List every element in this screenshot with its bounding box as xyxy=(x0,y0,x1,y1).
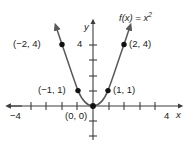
point-label-neg2-4: (−2, 4) xyxy=(13,39,41,49)
y-tick-label-4: 4 xyxy=(77,39,82,49)
x-axis-label: x xyxy=(176,110,181,120)
data-point-0-0 xyxy=(90,103,96,109)
graph-figure: f(x) = x2 y x 4 −4 4 (−2, 4) (−1, 1) (0,… xyxy=(0,0,195,145)
data-point-2-4 xyxy=(121,42,126,47)
data-point-1-1 xyxy=(105,88,110,93)
coordinate-plane xyxy=(0,0,195,145)
data-point-neg2-4 xyxy=(59,42,64,47)
data-point-neg1-1 xyxy=(75,88,80,93)
point-label-0-0: (0, 0) xyxy=(65,111,87,121)
y-axis-label: y xyxy=(84,22,89,32)
function-label-text: f(x) = x xyxy=(119,12,148,23)
function-label-exponent: 2 xyxy=(148,11,152,18)
point-label-1-1: (1, 1) xyxy=(113,85,135,95)
x-tick-label-4: 4 xyxy=(164,111,169,121)
point-label-neg1-1: (−1, 1) xyxy=(38,85,66,95)
point-label-2-4: (2, 4) xyxy=(129,39,151,49)
x-tick-label-neg4: −4 xyxy=(10,111,21,121)
function-label: f(x) = x2 xyxy=(119,13,152,23)
